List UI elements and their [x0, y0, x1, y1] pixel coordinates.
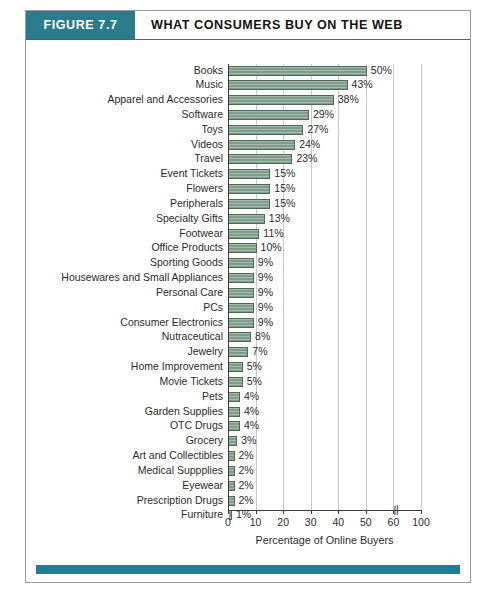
bottom-rule	[36, 565, 460, 574]
bar	[229, 169, 270, 179]
category-label: Videos	[191, 138, 223, 151]
bar-value-label: 43%	[352, 78, 373, 91]
bar-value-label: 9%	[258, 316, 273, 329]
bar-row: Footwear11%	[228, 229, 421, 239]
bar-value-label: 9%	[258, 256, 273, 269]
figure-title: WHAT CONSUMERS BUY ON THE WEB	[135, 11, 470, 39]
bar	[229, 214, 265, 224]
bar	[229, 451, 235, 461]
y-axis-line	[228, 64, 229, 510]
bar	[229, 303, 254, 313]
x-tick-label: 30	[305, 516, 317, 528]
bar-value-label: 29%	[313, 108, 334, 121]
category-label: Eyewear	[182, 479, 223, 492]
category-label: Toys	[201, 123, 223, 136]
category-label: Grocery	[186, 434, 223, 447]
category-label: Travel	[194, 152, 223, 165]
category-label: PCs	[203, 301, 223, 314]
bar-row: Home Improvement5%	[228, 362, 421, 372]
category-label: Medical Suppplies	[138, 464, 223, 477]
bar-value-label: 8%	[255, 330, 270, 343]
x-tick	[366, 510, 367, 514]
bar-row: Apparel and Accessories38%	[228, 95, 421, 105]
x-tick	[311, 510, 312, 514]
category-label: Consumer Electronics	[120, 316, 223, 329]
bar-row: Garden Supplies4%	[228, 407, 421, 417]
bar	[229, 80, 348, 90]
bar-row: Nutraceutical8%	[228, 332, 421, 342]
category-label: Personal Care	[156, 286, 223, 299]
bar-row: Personal Care9%	[228, 288, 421, 298]
bar	[229, 140, 295, 150]
category-label: Furniture	[181, 508, 223, 521]
bar-value-label: 2%	[239, 464, 254, 477]
bar	[229, 332, 251, 342]
bar-value-label: 7%	[252, 345, 267, 358]
x-tick-label: 10	[250, 516, 262, 528]
bar	[229, 377, 243, 387]
bar-value-label: 11%	[263, 227, 283, 240]
bar-value-label: 5%	[247, 375, 262, 388]
category-label: Sporting Goods	[150, 256, 223, 269]
bar-value-label: 2%	[239, 449, 254, 462]
bar-row: Toys27%	[228, 125, 421, 135]
x-tick	[256, 510, 257, 514]
category-label: Specialty Gifts	[156, 212, 223, 225]
figure-number-tag: FIGURE 7.7	[26, 11, 135, 39]
bar-row: Housewares and Small Appliances9%	[228, 273, 421, 283]
bar-row: Art and Collectibles2%	[228, 451, 421, 461]
category-label: Software	[182, 108, 223, 121]
bar-row: Eyewear2%	[228, 481, 421, 491]
bar-value-label: 27%	[307, 123, 328, 136]
bar	[229, 95, 334, 105]
category-label: Music	[196, 78, 223, 91]
category-label: Garden Supplies	[145, 405, 223, 418]
bar-value-label: 9%	[258, 301, 273, 314]
bar	[229, 258, 254, 268]
x-tick-label: 100	[412, 516, 430, 528]
category-label: Prescription Drugs	[137, 494, 223, 507]
bar	[229, 362, 243, 372]
bar	[229, 288, 254, 298]
category-label: Books	[194, 64, 223, 77]
category-label: Peripherals	[170, 197, 223, 210]
bar-row: Software29%	[228, 110, 421, 120]
bar-value-label: 13%	[269, 212, 290, 225]
x-tick	[283, 510, 284, 514]
x-tick	[228, 510, 229, 514]
bar-value-label: 38%	[338, 93, 359, 106]
category-label: Footwear	[179, 227, 223, 240]
bar	[229, 496, 235, 506]
bar-value-label: 5%	[247, 360, 262, 373]
chart-area: Books50%Music43%Apparel and Accessories3…	[26, 40, 470, 582]
category-label: Home Improvement	[131, 360, 223, 373]
bar-value-label: 4%	[244, 390, 259, 403]
category-label: Flowers	[186, 182, 223, 195]
bar-row: Peripherals15%	[228, 199, 421, 209]
bar	[229, 481, 235, 491]
bar	[229, 199, 270, 209]
bar	[229, 184, 270, 194]
bar-row: Flowers15%	[228, 184, 421, 194]
bar-value-label: 4%	[244, 419, 259, 432]
bar-row: Books50%	[228, 66, 421, 76]
x-axis-title: Percentage of Online Buyers	[228, 534, 421, 546]
bar	[229, 66, 367, 76]
bar-row: Music43%	[228, 80, 421, 90]
bar	[229, 273, 254, 283]
bar-value-label: 24%	[299, 138, 320, 151]
bar-value-label: 9%	[258, 271, 273, 284]
bar-value-label: 15%	[274, 167, 295, 180]
bar	[229, 154, 292, 164]
bar-row: Grocery3%	[228, 436, 421, 446]
bar	[229, 229, 259, 239]
bar	[229, 466, 235, 476]
category-label: Nutraceutical	[162, 330, 223, 343]
x-tick-label: 0	[225, 516, 231, 528]
bar-row: Consumer Electronics9%	[228, 318, 421, 328]
bar	[229, 421, 240, 431]
category-label: Housewares and Small Appliances	[61, 271, 223, 284]
bar-row: Event Tickets15%	[228, 169, 421, 179]
figure-header: FIGURE 7.7 WHAT CONSUMERS BUY ON THE WEB	[26, 11, 470, 40]
bar-value-label: 3%	[241, 434, 256, 447]
